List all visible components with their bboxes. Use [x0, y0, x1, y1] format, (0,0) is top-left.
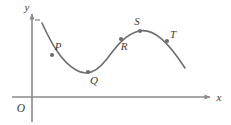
curve-point-label-t: T	[170, 28, 177, 40]
math-figure: x y O PQRST	[0, 0, 231, 125]
curve-point-label-q: Q	[90, 74, 98, 86]
curve-point-label-p: P	[54, 40, 62, 52]
y-axis: y	[24, 1, 40, 122]
curve-point-p	[50, 53, 54, 57]
origin-label: O	[17, 102, 26, 114]
curve-point-s	[138, 29, 142, 33]
figure-canvas: x y O PQRST	[0, 0, 231, 125]
y-axis-label: y	[24, 1, 30, 13]
curve-point-label-r: R	[120, 40, 128, 52]
x-axis: x	[12, 91, 222, 103]
function-curve	[42, 23, 185, 73]
x-axis-label: x	[216, 91, 222, 103]
curve-point-t	[165, 39, 169, 43]
curve-point-label-s: S	[134, 15, 140, 27]
